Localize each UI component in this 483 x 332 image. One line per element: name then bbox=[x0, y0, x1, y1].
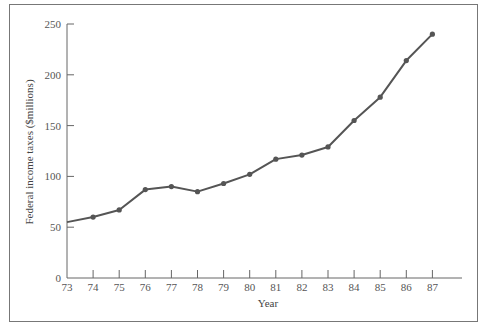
data-point bbox=[299, 152, 304, 157]
data-point bbox=[221, 181, 226, 186]
x-tick-label: 86 bbox=[401, 281, 413, 293]
x-axis: 737475767778798081828384858687 bbox=[62, 270, 463, 293]
data-point bbox=[117, 207, 122, 212]
data-line bbox=[67, 34, 432, 222]
data-point bbox=[325, 144, 330, 149]
data-point bbox=[404, 58, 409, 63]
y-tick-label: 100 bbox=[45, 170, 62, 182]
x-tick-label: 74 bbox=[88, 281, 100, 293]
data-point bbox=[143, 187, 148, 192]
data-point bbox=[91, 214, 96, 219]
y-axis: 050100150200250 bbox=[45, 18, 75, 284]
data-point bbox=[378, 95, 383, 100]
x-tick-label: 85 bbox=[375, 281, 387, 293]
x-tick-label: 75 bbox=[114, 281, 126, 293]
data-point bbox=[247, 172, 252, 177]
x-tick-label: 78 bbox=[192, 281, 204, 293]
data-point bbox=[273, 157, 278, 162]
x-tick-label: 82 bbox=[296, 281, 307, 293]
y-axis-title: Federal income taxes ($millions) bbox=[23, 79, 36, 224]
y-tick-label: 50 bbox=[50, 221, 62, 233]
x-axis-title: Year bbox=[258, 297, 279, 309]
data-point bbox=[169, 184, 174, 189]
y-tick-label: 200 bbox=[45, 69, 62, 81]
data-point bbox=[195, 189, 200, 194]
x-tick-label: 87 bbox=[427, 281, 439, 293]
y-tick-label: 250 bbox=[45, 18, 62, 30]
data-point bbox=[430, 32, 435, 37]
x-tick-label: 77 bbox=[166, 281, 178, 293]
x-tick-label: 73 bbox=[62, 281, 74, 293]
x-tick-label: 81 bbox=[270, 281, 281, 293]
x-tick-label: 84 bbox=[349, 281, 361, 293]
series-layer bbox=[67, 32, 435, 223]
x-tick-label: 76 bbox=[140, 281, 152, 293]
y-tick-label: 150 bbox=[45, 120, 62, 132]
data-point bbox=[352, 118, 357, 123]
x-tick-label: 80 bbox=[244, 281, 256, 293]
x-tick-label: 83 bbox=[323, 281, 335, 293]
x-tick-label: 79 bbox=[218, 281, 230, 293]
line-chart: 050100150200250 737475767778798081828384… bbox=[0, 0, 483, 332]
